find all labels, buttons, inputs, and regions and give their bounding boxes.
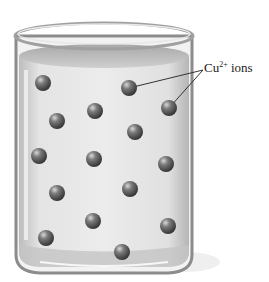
cu-ion xyxy=(35,75,51,91)
glass-reflection xyxy=(24,70,28,240)
cu-ion xyxy=(158,156,174,172)
label-charge: 2+ xyxy=(219,60,228,69)
cu-ion xyxy=(85,213,101,229)
beaker-illustration xyxy=(0,0,269,282)
cu-ion xyxy=(49,185,65,201)
beaker-diagram: Cu2+ ions xyxy=(0,0,269,282)
ion-label: Cu2+ ions xyxy=(204,60,253,76)
label-base: Cu xyxy=(204,60,219,75)
cu-ion xyxy=(121,80,137,96)
cu-ion xyxy=(114,244,130,260)
label-suffix: ions xyxy=(228,60,253,75)
cu-ion xyxy=(38,230,54,246)
cu-ion xyxy=(161,100,177,116)
cu-ion xyxy=(31,148,47,164)
cu-ion xyxy=(127,124,143,140)
cu-ion xyxy=(49,113,65,129)
cu-ion xyxy=(160,218,176,234)
cu-ion xyxy=(122,181,138,197)
cu-ion xyxy=(87,103,103,119)
cu-ion xyxy=(86,151,102,167)
